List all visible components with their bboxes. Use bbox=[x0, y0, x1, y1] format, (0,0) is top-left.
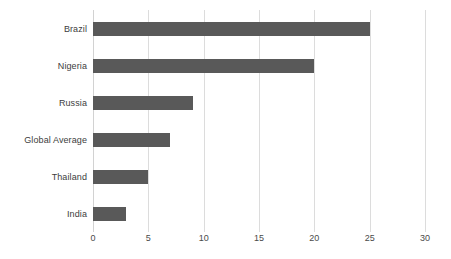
category-label-russia: Russia bbox=[0, 84, 87, 121]
category-label-brazil: Brazil bbox=[0, 10, 87, 47]
bar-india bbox=[93, 207, 126, 221]
bars bbox=[93, 10, 425, 232]
x-tick-25: 25 bbox=[365, 233, 375, 243]
category-axis-labels: BrazilNigeriaRussiaGlobal AverageThailan… bbox=[0, 10, 87, 232]
figure-caption bbox=[14, 250, 434, 259]
x-tick-15: 15 bbox=[254, 233, 264, 243]
bar-row bbox=[93, 121, 425, 158]
category-label-nigeria: Nigeria bbox=[0, 47, 87, 84]
bar-russia bbox=[93, 96, 193, 110]
bar-row bbox=[93, 10, 425, 47]
category-label-india: India bbox=[0, 195, 87, 232]
bar-chart: BrazilNigeriaRussiaGlobal AverageThailan… bbox=[0, 0, 451, 259]
x-tick-20: 20 bbox=[309, 233, 319, 243]
bar-global-average bbox=[93, 133, 170, 147]
x-axis-tick-labels: 051015202530 bbox=[93, 233, 425, 247]
x-tick-0: 0 bbox=[90, 233, 95, 243]
category-label-global-average: Global Average bbox=[0, 121, 87, 158]
bar-nigeria bbox=[93, 59, 314, 73]
bar-brazil bbox=[93, 22, 370, 36]
x-tick-10: 10 bbox=[199, 233, 209, 243]
category-label-thailand: Thailand bbox=[0, 158, 87, 195]
bar-row bbox=[93, 84, 425, 121]
bar-thailand bbox=[93, 170, 148, 184]
x-tick-5: 5 bbox=[146, 233, 151, 243]
plot-area bbox=[93, 10, 425, 232]
bar-row bbox=[93, 158, 425, 195]
bar-row bbox=[93, 47, 425, 84]
x-tick-30: 30 bbox=[420, 233, 430, 243]
bar-row bbox=[93, 195, 425, 232]
gridline-30 bbox=[425, 10, 426, 232]
